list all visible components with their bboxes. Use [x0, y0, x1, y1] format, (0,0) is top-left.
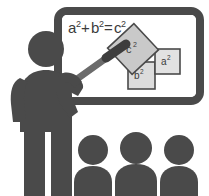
illustration-canvas: Teacher at whiteboard explaining the Pyt…	[0, 0, 209, 196]
formula-equals: =	[104, 19, 113, 36]
formula-plus: +	[81, 19, 90, 36]
teacher-left-leg	[24, 124, 45, 196]
student-1-body	[74, 166, 112, 196]
student-3-head	[164, 135, 194, 165]
square-c-label-exponent: 2	[133, 41, 137, 48]
student-2-body	[115, 164, 157, 196]
square-a-label-exponent: 2	[167, 54, 171, 61]
student-3-body	[160, 166, 198, 196]
student-2-head	[120, 132, 152, 164]
formula-c-exponent: 2	[121, 19, 126, 29]
square-b-label-exponent: 2	[140, 68, 144, 75]
teacher-head	[28, 31, 64, 67]
student-1-head	[78, 135, 108, 165]
teacher-hips	[20, 120, 72, 132]
square-a: a 2	[155, 49, 180, 74]
teacher-right-leg	[51, 124, 72, 196]
square-a-shape	[155, 49, 180, 74]
students-row	[74, 132, 198, 196]
classroom-pictogram: a 2 + b 2 = c 2 b 2 a	[0, 0, 209, 196]
